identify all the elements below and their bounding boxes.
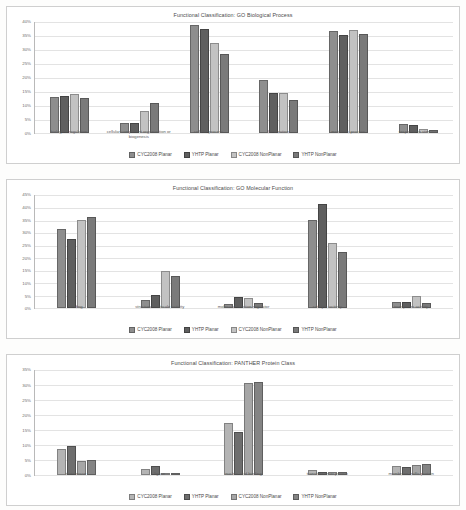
bar[interactable] bbox=[359, 34, 368, 134]
bar-group bbox=[174, 22, 244, 133]
legend-label: YHTP NonPlanar bbox=[301, 153, 336, 158]
x-axis-category-label: localization bbox=[243, 129, 313, 143]
x-axis-category-label: cellular component organization or bioge… bbox=[104, 129, 174, 143]
bar[interactable] bbox=[339, 35, 348, 134]
y-axis-3: 35%30%25%20%15%10%5%0% bbox=[13, 370, 33, 476]
legend-item[interactable]: YHTP Planar bbox=[184, 152, 219, 158]
y-axis-tick-label: 15% bbox=[22, 269, 31, 273]
x-axis-category-label: ligase bbox=[118, 471, 202, 485]
x-axis-category-label: transferase bbox=[34, 471, 118, 485]
legend-item[interactable]: YHTP NonPlanar bbox=[293, 152, 336, 158]
bar-group bbox=[383, 22, 453, 133]
y-axis-tick-label: 5% bbox=[25, 459, 31, 463]
bar[interactable] bbox=[87, 217, 96, 308]
y-axis-tick-label: 30% bbox=[22, 231, 31, 235]
y-axis-tick-label: 40% bbox=[22, 206, 31, 210]
bar[interactable] bbox=[338, 252, 347, 309]
plot-area-2: 45%40%35%30%25%20%15%10%5%0% bbox=[13, 195, 453, 309]
y-axis-tick-label: 25% bbox=[22, 62, 31, 66]
bar[interactable] bbox=[308, 220, 317, 309]
bar-group bbox=[35, 22, 105, 133]
bar[interactable] bbox=[259, 80, 268, 133]
bar[interactable] bbox=[210, 43, 219, 134]
legend-swatch-icon bbox=[293, 327, 299, 333]
bar[interactable] bbox=[67, 239, 76, 309]
bar-group bbox=[35, 195, 119, 308]
legend-item[interactable]: CYC2008 NonPlanar bbox=[231, 494, 282, 500]
bar[interactable] bbox=[57, 229, 66, 309]
bar[interactable] bbox=[269, 93, 278, 133]
bar[interactable] bbox=[190, 25, 199, 133]
bar[interactable] bbox=[318, 204, 327, 308]
legend-3: CYC2008 PlanarYHTP PlanarCYC2008 NonPlan… bbox=[7, 494, 459, 500]
legend-2: CYC2008 PlanarYHTP PlanarCYC2008 NonPlan… bbox=[7, 327, 459, 333]
bar[interactable] bbox=[244, 383, 253, 475]
legend-label: CYC2008 Planar bbox=[137, 153, 171, 158]
y-axis-tick-label: 20% bbox=[22, 257, 31, 261]
legend-swatch-icon bbox=[184, 327, 190, 333]
bar[interactable] bbox=[349, 30, 358, 134]
chart-title: Functional Classification: GO Molecular … bbox=[7, 180, 459, 191]
legend-item[interactable]: CYC2008 Planar bbox=[129, 327, 171, 333]
x-axis-category-label: transporter activity bbox=[369, 304, 453, 318]
legend-label: CYC2008 NonPlanar bbox=[239, 328, 282, 333]
y-axis-tick-label: 5% bbox=[25, 295, 31, 299]
bar-group bbox=[286, 370, 370, 475]
y-axis-tick-label: 40% bbox=[22, 20, 31, 24]
legend-item[interactable]: CYC2008 Planar bbox=[129, 152, 171, 158]
legend-item[interactable]: YHTP Planar bbox=[184, 494, 219, 500]
legend-1: CYC2008 PlanarYHTP PlanarCYC2008 NonPlan… bbox=[7, 152, 459, 158]
legend-item[interactable]: CYC2008 NonPlanar bbox=[231, 327, 282, 333]
y-axis-tick-label: 10% bbox=[22, 282, 31, 286]
chart-title: Functional Classification: GO Biological… bbox=[7, 7, 459, 18]
y-axis-1: 40%35%30%25%20%15%10%5%0% bbox=[13, 22, 33, 134]
bar[interactable] bbox=[60, 96, 69, 134]
bar-group bbox=[369, 370, 453, 475]
bar-group bbox=[286, 195, 370, 308]
legend-label: YHTP NonPlanar bbox=[301, 328, 336, 333]
legend-swatch-icon bbox=[293, 152, 299, 158]
bar[interactable] bbox=[161, 271, 170, 308]
plot-area-3: 35%30%25%20%15%10%5%0% bbox=[13, 370, 453, 476]
x-axis-category-label: response to stimulus bbox=[383, 129, 453, 143]
bar[interactable] bbox=[70, 94, 79, 134]
legend-swatch-icon bbox=[184, 152, 190, 158]
y-axis-tick-label: 25% bbox=[22, 398, 31, 402]
legend-label: YHTP Planar bbox=[192, 495, 219, 500]
bar-groups-2 bbox=[35, 195, 453, 308]
x-axis-category-label: biological regulation bbox=[34, 129, 104, 143]
chart-card-go-molecular-function: Functional Classification: GO Molecular … bbox=[6, 179, 460, 339]
plot-area-1: 40%35%30%25%20%15%10%5%0% bbox=[13, 22, 453, 134]
chart-card-go-biological-process: Functional Classification: GO Biological… bbox=[6, 6, 460, 164]
legend-swatch-icon bbox=[231, 327, 237, 333]
bar[interactable] bbox=[224, 423, 233, 476]
bar[interactable] bbox=[77, 220, 86, 309]
legend-swatch-icon bbox=[231, 494, 237, 500]
bar-groups-1 bbox=[35, 22, 453, 133]
x-axis-category-label: metabolic process bbox=[313, 129, 383, 143]
bar[interactable] bbox=[279, 93, 288, 134]
bar[interactable] bbox=[50, 97, 59, 134]
x-axis-labels-2: bindingstructural molecule activitymolec… bbox=[34, 304, 453, 318]
x-axis-category-label: membrane traffic protein bbox=[369, 471, 453, 485]
x-axis-category-label: molecular function regulator bbox=[202, 304, 286, 318]
legend-item[interactable]: CYC2008 NonPlanar bbox=[231, 152, 282, 158]
bar[interactable] bbox=[200, 29, 209, 133]
bar[interactable] bbox=[329, 31, 338, 134]
legend-item[interactable]: YHTP Planar bbox=[184, 327, 219, 333]
bar[interactable] bbox=[234, 432, 243, 476]
bar[interactable] bbox=[254, 382, 263, 475]
legend-item[interactable]: YHTP NonPlanar bbox=[293, 494, 336, 500]
y-axis-tick-label: 25% bbox=[22, 244, 31, 248]
chart-title: Functional Classification: PANTHER Prote… bbox=[7, 355, 459, 366]
y-axis-tick-label: 0% bbox=[25, 307, 31, 311]
legend-swatch-icon bbox=[231, 152, 237, 158]
y-axis-tick-label: 45% bbox=[22, 193, 31, 197]
x-axis-category-label: transfer/carrier protein bbox=[285, 471, 369, 485]
legend-item[interactable]: YHTP NonPlanar bbox=[293, 327, 336, 333]
bar[interactable] bbox=[328, 243, 337, 308]
bar[interactable] bbox=[220, 54, 229, 134]
y-axis-tick-label: 35% bbox=[22, 368, 31, 372]
legend-item[interactable]: CYC2008 Planar bbox=[129, 494, 171, 500]
charts-page: Functional Classification: GO Biological… bbox=[0, 0, 466, 510]
